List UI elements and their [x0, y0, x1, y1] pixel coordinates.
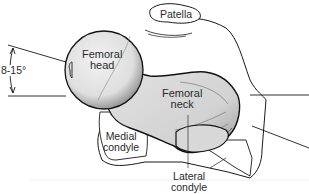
femoral-neck-label: Femoral neck: [162, 88, 202, 110]
lateral-condyle-line2: condyle: [171, 182, 207, 193]
femoral-neck-line2: neck: [162, 99, 202, 110]
angle-value: 8-15°: [1, 64, 26, 76]
neck-axis-line: [8, 45, 66, 62]
patella-label: Patella: [160, 9, 192, 20]
angle-label: 8-15°: [1, 65, 26, 76]
femoral-anteversion-diagram: Patella Femoral head Femoral neck Medial…: [0, 0, 309, 194]
medial-condyle-label: Medial condyle: [103, 131, 139, 153]
femur-illustration: [0, 0, 309, 194]
patella-text: Patella: [160, 8, 192, 20]
medial-condyle-line2: condyle: [103, 142, 139, 153]
lateral-condyle-label: Lateral condyle: [171, 171, 207, 193]
femoral-head-label: Femoral head: [82, 49, 122, 71]
femoral-head-line2: head: [82, 60, 122, 71]
